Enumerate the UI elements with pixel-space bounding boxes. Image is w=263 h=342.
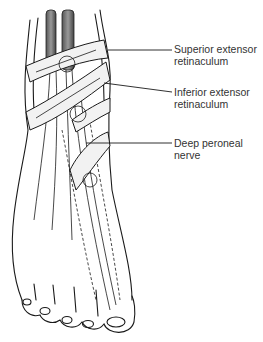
label-line: Superior extensor [174, 43, 257, 55]
label-line: nerve [174, 149, 243, 161]
label-superior-extensor-retinaculum: Superior extensor retinaculum [174, 43, 257, 67]
leg-outline-left [12, 20, 30, 300]
label-inferior-extensor-retinaculum: Inferior extensor retinaculum [174, 86, 250, 110]
label-deep-peroneal-nerve: Deep peroneal nerve [174, 137, 243, 161]
label-line: Inferior extensor [174, 86, 250, 98]
label-line: Deep peroneal [174, 137, 243, 149]
label-line: retinaculum [174, 98, 250, 110]
leader-inferior [104, 83, 172, 92]
label-line: retinaculum [174, 55, 257, 67]
